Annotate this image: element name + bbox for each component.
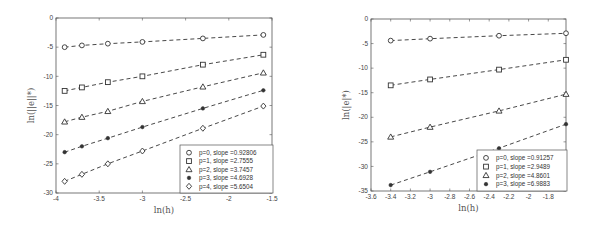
y-axis-label: ln(|e|*) bbox=[341, 90, 352, 120]
x-tick-label: -2 bbox=[526, 193, 532, 200]
legend-label: p=4, slope =5.6504 bbox=[199, 183, 253, 191]
square-marker-icon bbox=[105, 80, 110, 85]
y-tick-label: -25 bbox=[359, 138, 369, 145]
legend-label: p=0, slope =0.91257 bbox=[496, 154, 554, 162]
x-tick-label: -2.2 bbox=[503, 193, 515, 200]
square-marker-icon bbox=[564, 57, 569, 62]
y-tick-label: 0 bbox=[49, 14, 53, 21]
x-tick-label: -2.5 bbox=[180, 195, 192, 202]
square-marker-icon bbox=[428, 77, 433, 82]
y-tick-label: 0 bbox=[364, 15, 368, 22]
circle-marker-icon bbox=[497, 33, 502, 38]
legend-label: p=0, slope =0.92806 bbox=[199, 149, 257, 157]
x-tick-label: -3.2 bbox=[405, 193, 417, 200]
y-tick-label: -5 bbox=[362, 40, 368, 47]
square-marker-icon bbox=[200, 62, 205, 67]
filled-dot-marker-icon bbox=[262, 89, 266, 93]
legend-label: p=3, slope =6.9883 bbox=[496, 180, 550, 188]
square-marker-icon bbox=[261, 52, 266, 57]
x-tick-label: -2.6 bbox=[464, 193, 476, 200]
circle-marker-icon bbox=[484, 155, 489, 160]
y-tick-label: -5 bbox=[47, 43, 53, 50]
square-marker-icon bbox=[140, 74, 145, 79]
square-marker-icon bbox=[80, 85, 85, 90]
x-axis-label: ln(h) bbox=[154, 205, 174, 215]
filled-dot-marker-icon bbox=[497, 146, 501, 150]
legend: p=0, slope =0.91257p=1, slope =2.9489p=2… bbox=[477, 150, 567, 191]
x-tick-label: -3.4 bbox=[385, 193, 397, 200]
y-tick-label: -30 bbox=[359, 163, 369, 170]
filled-dot-marker-icon bbox=[484, 182, 488, 186]
y-tick-label: -20 bbox=[44, 131, 54, 138]
filled-dot-marker-icon bbox=[187, 176, 191, 180]
legend: p=0, slope =0.92806p=1, slope =2.7555p=2… bbox=[180, 145, 273, 193]
x-tick-label: -1.5 bbox=[266, 195, 278, 202]
figure-canvas: -4-3.5-3-2.5-2-1.50-5-10-15-20-25-30ln(h… bbox=[0, 0, 590, 225]
circle-marker-icon bbox=[62, 45, 67, 50]
y-axis-label: ln(||e||*) bbox=[26, 88, 37, 124]
circle-marker-icon bbox=[428, 36, 433, 41]
filled-dot-marker-icon bbox=[63, 150, 67, 154]
circle-marker-icon bbox=[140, 40, 145, 45]
square-marker-icon bbox=[388, 83, 393, 88]
y-tick-label: -10 bbox=[359, 64, 369, 71]
x-tick-label: -3 bbox=[140, 195, 146, 202]
x-tick-label: -2 bbox=[226, 195, 232, 202]
y-tick-label: -15 bbox=[359, 89, 369, 96]
x-tick-label: -3 bbox=[427, 193, 433, 200]
x-tick-label: -4 bbox=[53, 195, 59, 202]
filled-dot-marker-icon bbox=[106, 136, 110, 140]
square-marker-icon bbox=[187, 159, 192, 164]
square-marker-icon bbox=[62, 89, 67, 94]
square-marker-icon bbox=[484, 164, 489, 169]
legend-label: p=2, slope =4.8601 bbox=[496, 172, 550, 180]
filled-dot-marker-icon bbox=[141, 125, 145, 129]
filled-dot-marker-icon bbox=[201, 107, 205, 111]
x-axis-label: ln(h) bbox=[458, 203, 478, 213]
legend-label: p=3, slope =4.6928 bbox=[199, 174, 253, 182]
y-tick-label: -35 bbox=[359, 187, 369, 194]
y-tick-label: -15 bbox=[44, 102, 54, 109]
x-tick-label: -3.5 bbox=[94, 195, 106, 202]
circle-marker-icon bbox=[200, 36, 205, 41]
right-convergence-chart: -3.6-3.4-3.2-3-2.8-2.6-2.4-2.2-2-1.80-5-… bbox=[341, 15, 569, 213]
x-tick-label: -2.4 bbox=[484, 193, 496, 200]
y-tick-label: -20 bbox=[359, 113, 369, 120]
square-marker-icon bbox=[497, 67, 502, 72]
circle-marker-icon bbox=[187, 150, 192, 155]
legend-label: p=1, slope =2.7555 bbox=[199, 157, 253, 165]
filled-dot-marker-icon bbox=[389, 183, 393, 187]
circle-marker-icon bbox=[564, 31, 569, 36]
legend-label: p=1, slope =2.9489 bbox=[496, 163, 550, 171]
y-tick-label: -10 bbox=[44, 73, 54, 80]
circle-marker-icon bbox=[388, 38, 393, 43]
filled-dot-marker-icon bbox=[428, 170, 432, 174]
circle-marker-icon bbox=[105, 41, 110, 46]
legend-label: p=2, slope =3.7457 bbox=[199, 166, 253, 174]
x-tick-label: -1.8 bbox=[543, 193, 555, 200]
circle-marker-icon bbox=[261, 33, 266, 38]
y-tick-label: -25 bbox=[44, 160, 54, 167]
y-tick-label: -30 bbox=[44, 189, 54, 196]
x-tick-label: -2.8 bbox=[444, 193, 456, 200]
filled-dot-marker-icon bbox=[564, 122, 568, 126]
filled-dot-marker-icon bbox=[80, 145, 84, 149]
left-convergence-chart: -4-3.5-3-2.5-2-1.50-5-10-15-20-25-30ln(h… bbox=[26, 14, 278, 215]
circle-marker-icon bbox=[80, 43, 85, 48]
